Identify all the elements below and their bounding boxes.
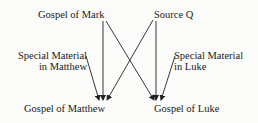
node-special-material-matthew: Special Material in Matthew bbox=[15, 50, 87, 72]
special-matthew-line2: in Matthew bbox=[15, 61, 87, 72]
node-gospel-of-matthew: Gospel of Matthew bbox=[24, 103, 105, 114]
special-luke-line1: Special Material bbox=[174, 50, 243, 61]
node-gospel-of-mark: Gospel of Mark bbox=[38, 9, 105, 20]
arrow-special-luke-to-luke bbox=[161, 56, 175, 100]
special-matthew-line1: Special Material bbox=[15, 50, 87, 61]
special-luke-line2: in Luke bbox=[174, 61, 243, 72]
synoptic-sources-diagram: Gospel of Mark Source Q Special Material… bbox=[0, 0, 258, 123]
node-source-q: Source Q bbox=[154, 9, 193, 20]
node-gospel-of-luke: Gospel of Luke bbox=[154, 103, 219, 114]
arrow-q-to-matthew bbox=[107, 20, 153, 100]
node-special-material-luke: Special Material in Luke bbox=[174, 50, 243, 72]
arrow-special-matthew-to-matthew bbox=[86, 56, 99, 100]
